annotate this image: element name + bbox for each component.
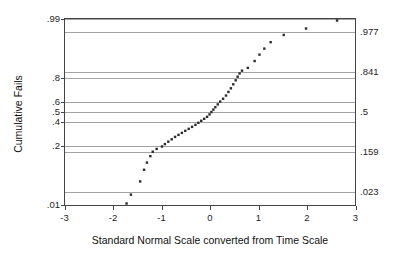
data-point bbox=[235, 79, 237, 81]
x-tick-label: -1 bbox=[149, 213, 175, 223]
normal-probability-plot: Cumulative Fails Standard Normal Scale c… bbox=[0, 0, 408, 257]
data-point bbox=[194, 124, 196, 126]
data-point bbox=[232, 83, 234, 85]
y-tick-label-left: .5 bbox=[24, 107, 60, 117]
plot-frame bbox=[65, 19, 356, 206]
y-tick-label-right: .5 bbox=[360, 107, 404, 117]
data-point bbox=[283, 34, 285, 36]
data-point bbox=[200, 120, 202, 122]
data-point bbox=[217, 103, 219, 105]
data-point bbox=[227, 91, 229, 93]
data-point bbox=[177, 134, 179, 136]
data-point bbox=[149, 155, 151, 157]
data-point bbox=[181, 132, 183, 134]
data-point bbox=[336, 19, 338, 21]
x-axis-ticks bbox=[66, 206, 357, 210]
data-point bbox=[146, 161, 148, 163]
data-point bbox=[125, 202, 127, 204]
x-tick-label: -2 bbox=[100, 213, 126, 223]
data-point bbox=[212, 108, 214, 110]
data-point bbox=[130, 193, 132, 195]
data-point bbox=[269, 41, 271, 43]
data-point bbox=[155, 148, 157, 150]
data-points bbox=[125, 19, 338, 204]
data-point bbox=[206, 116, 208, 118]
data-point bbox=[263, 47, 265, 49]
data-point bbox=[236, 75, 238, 77]
data-point bbox=[143, 169, 145, 171]
data-point bbox=[170, 138, 172, 140]
x-tick-label: 0 bbox=[197, 213, 223, 223]
data-point bbox=[241, 69, 243, 71]
data-point bbox=[161, 145, 163, 147]
data-point bbox=[238, 72, 240, 74]
data-point bbox=[191, 126, 193, 128]
data-point bbox=[230, 87, 232, 89]
y-tick-label-right: .841 bbox=[360, 67, 404, 77]
x-tick-label: 2 bbox=[294, 213, 320, 223]
data-point bbox=[184, 130, 186, 132]
data-point bbox=[253, 60, 255, 62]
data-point bbox=[222, 98, 224, 100]
x-tick-label: 1 bbox=[246, 213, 272, 223]
data-point bbox=[187, 128, 189, 130]
plot-border bbox=[65, 19, 356, 206]
data-point bbox=[208, 113, 210, 115]
y-tick-label-right: .159 bbox=[360, 147, 404, 157]
data-point bbox=[225, 94, 227, 96]
y-tick-label-right: .023 bbox=[360, 187, 404, 197]
y-tick-label-left: .01 bbox=[24, 200, 60, 210]
y-tick-label-left: .4 bbox=[24, 117, 60, 127]
y-axis-title: Cumulative Fails bbox=[12, 54, 24, 174]
y-tick-label-left: .6 bbox=[24, 97, 60, 107]
data-point bbox=[152, 151, 154, 153]
x-tick-label: 3 bbox=[343, 213, 369, 223]
data-point bbox=[139, 180, 141, 182]
y-tick-label-left: .99 bbox=[24, 14, 60, 24]
data-point bbox=[219, 100, 221, 102]
y-tick-label-left: .8 bbox=[24, 73, 60, 83]
y-tick-label-left: .2 bbox=[24, 141, 60, 151]
data-point bbox=[214, 106, 216, 108]
data-point bbox=[247, 67, 249, 69]
x-axis-title: Standard Normal Scale converted from Tim… bbox=[64, 234, 356, 246]
data-point bbox=[174, 136, 176, 138]
data-point bbox=[197, 122, 199, 124]
data-point bbox=[258, 53, 260, 55]
y-tick-label-right: .977 bbox=[360, 27, 404, 37]
x-tick-label: -3 bbox=[52, 213, 78, 223]
data-point bbox=[305, 27, 307, 29]
data-point bbox=[164, 143, 166, 145]
data-point bbox=[210, 111, 212, 113]
data-point bbox=[167, 141, 169, 143]
y-axis-left-ticks bbox=[61, 20, 65, 206]
data-point bbox=[203, 118, 205, 120]
gridlines bbox=[65, 20, 356, 206]
